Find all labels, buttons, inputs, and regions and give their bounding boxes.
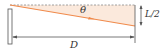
distance-arrow-right-head-icon (130, 36, 135, 39)
half-length-arrow-top-head-icon (140, 5, 143, 9)
half-length-arrow-bottom-head-icon (140, 22, 143, 26)
mirror-plate (8, 9, 12, 44)
distance-arrow-left-head-icon (12, 36, 17, 39)
distance-label: D (70, 40, 78, 49)
half-length-label: L/2 (145, 10, 160, 19)
angle-label: θ (80, 5, 86, 15)
